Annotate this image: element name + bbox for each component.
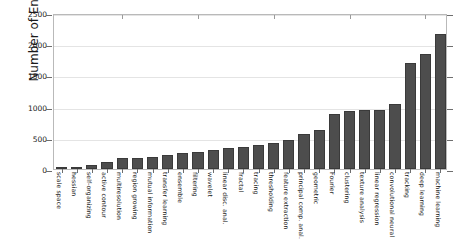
top-axis-tick xyxy=(274,15,275,19)
x-axis-tick-labels: scale spacehessianself-organizingactive … xyxy=(53,172,447,246)
bar xyxy=(147,157,158,169)
x-axis-tick-label: wavelet xyxy=(207,172,214,197)
bar xyxy=(314,130,325,169)
y-axis-tick-right xyxy=(447,109,453,110)
bar xyxy=(177,153,188,169)
x-axis-tick-label: geometric xyxy=(313,172,320,204)
bar xyxy=(374,110,385,169)
bar xyxy=(223,148,234,169)
plot-area xyxy=(53,14,447,170)
x-axis-tick-label: linear regression xyxy=(374,172,381,225)
x-axis-tick-label: texture analysis xyxy=(359,172,366,223)
y-axis-tick xyxy=(46,46,52,47)
y-axis-tick-right xyxy=(447,171,453,172)
x-axis-tick-label: transfer learning xyxy=(162,172,169,225)
bar xyxy=(359,110,370,169)
x-axis-tick-label: filtering xyxy=(192,172,199,197)
x-axis-tick-label: self-organizing xyxy=(86,172,93,219)
bar xyxy=(389,104,400,169)
bar xyxy=(162,155,173,169)
x-axis-tick-label: fractal xyxy=(238,172,245,193)
bar xyxy=(117,158,128,169)
y-axis-tick-label: 500 xyxy=(3,134,47,143)
y-axis-tick xyxy=(46,171,52,172)
x-axis-tick-label: active contour xyxy=(101,172,108,218)
bar xyxy=(298,134,309,169)
x-axis-tick-label: linear disc. anal. xyxy=(222,172,229,225)
bar xyxy=(192,152,203,169)
x-axis-tick-label: tracking xyxy=(404,172,411,198)
top-axis-tick xyxy=(350,15,351,19)
top-axis-tick xyxy=(198,15,199,19)
y-axis-tick-right xyxy=(447,46,453,47)
x-axis-tick-label: tracing xyxy=(253,172,260,194)
y-axis-tick-right xyxy=(447,15,453,16)
y-axis-tick xyxy=(46,109,52,110)
top-axis-tick xyxy=(122,15,123,19)
y-axis-tick-label: 2000 xyxy=(3,41,47,50)
bar xyxy=(238,147,249,169)
y-axis-tick-label: 0 xyxy=(3,166,47,175)
x-axis-tick-label: hessian xyxy=(71,172,78,196)
y-axis-tick xyxy=(46,15,52,16)
x-axis-tick-label: ensemble xyxy=(177,172,184,203)
bar xyxy=(420,54,431,169)
x-axis-tick-label: convolutional neural xyxy=(389,172,396,237)
y-axis-tick-right xyxy=(447,140,453,141)
x-axis-tick-label: region growing xyxy=(132,172,139,220)
bar xyxy=(344,111,355,169)
bar xyxy=(253,145,264,169)
bar xyxy=(435,34,446,169)
x-axis-tick-label: multiresolution xyxy=(116,172,123,220)
bar xyxy=(329,114,340,169)
bar xyxy=(268,143,279,169)
x-axis-tick-label: principal comp. anal. xyxy=(298,172,305,239)
x-axis-tick-label: Fourier xyxy=(329,172,336,194)
y-axis-tick xyxy=(46,140,52,141)
x-axis-tick-label: thresholding xyxy=(268,172,275,212)
y-axis-tick-label: 2500 xyxy=(3,10,47,19)
x-axis-tick-label: mutual information xyxy=(147,172,154,233)
x-axis-tick-label: feature extraction xyxy=(283,172,290,229)
x-axis-tick-label: clustering xyxy=(344,172,351,204)
top-axis-tick xyxy=(425,15,426,19)
y-axis-tick-label: 1500 xyxy=(3,72,47,81)
bar xyxy=(405,63,416,169)
y-axis-tick-right xyxy=(447,77,453,78)
y-axis-tick-labels: 05001000150020002500 xyxy=(0,14,47,170)
x-axis-tick-label: machine learning xyxy=(435,172,442,227)
y-axis-tick xyxy=(46,77,52,78)
bars-container xyxy=(54,15,446,169)
bar xyxy=(101,162,112,169)
bar xyxy=(208,150,219,169)
bar-chart-figure: Number of Entries 05001000150020002500 s… xyxy=(0,0,464,246)
x-axis-tick-label: deep learning xyxy=(419,172,426,216)
bar xyxy=(283,140,294,169)
bar xyxy=(132,158,143,169)
y-axis-tick-label: 1000 xyxy=(3,103,47,112)
x-axis-tick-label: scale space xyxy=(56,172,63,209)
